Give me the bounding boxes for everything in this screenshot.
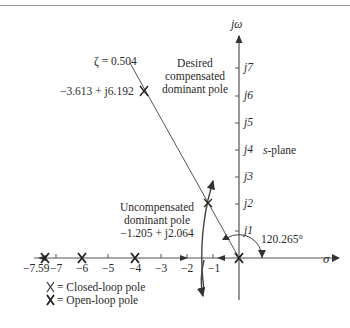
- tick-neg7: −7: [50, 262, 62, 275]
- zeta-label: ζ = 0.504: [94, 55, 137, 68]
- root-locus-plot: [0, 0, 350, 328]
- tick-j1: j1: [244, 224, 253, 237]
- tick-neg6: −6: [76, 262, 88, 275]
- tick-neg5: −5: [102, 262, 114, 275]
- imag-axis-label: jω: [231, 18, 242, 31]
- real-axis-arrow-icon: [332, 254, 340, 262]
- tick-neg2: −2: [181, 262, 193, 275]
- legend-open-loop: = Open-loop pole: [57, 294, 138, 307]
- angle-arrow-right-icon: [258, 250, 266, 258]
- legend-closed-x-icon: [47, 282, 54, 292]
- tick-neg7-59: −7.59: [23, 262, 50, 275]
- locus-branch-upper: [202, 200, 208, 290]
- root-locus-figure: jω σ s-plane j1 j2 j3 j4 j5 j6 j7 −7.59 …: [0, 0, 350, 328]
- tick-j2: j2: [244, 197, 253, 210]
- tick-j4: j4: [244, 143, 253, 156]
- tick-neg3: −3: [155, 262, 167, 275]
- tick-j3: j3: [244, 170, 253, 183]
- s-plane-label: s-plane: [263, 144, 296, 157]
- desired-pole-title: Desired compensated dominant pole: [150, 57, 240, 96]
- tick-j5: j5: [244, 116, 253, 129]
- legend-closed-loop: = Closed-loop pole: [57, 281, 145, 294]
- locus-arrow-origin-icon: [217, 255, 225, 261]
- legend-open-x-icon: [47, 295, 54, 305]
- real-axis-label: σ: [323, 252, 329, 265]
- angle-label: 120.265°: [261, 233, 303, 246]
- desired-pole-value: −3.613 + j6.192: [60, 85, 134, 98]
- uncompensated-pole-label: Uncompensated dominant pole −1.205 + j2.…: [112, 201, 202, 240]
- tick-j7: j7: [244, 61, 253, 74]
- tick-j6: j6: [244, 89, 253, 102]
- tick-neg4: −4: [129, 262, 141, 275]
- tick-neg1: −1: [208, 262, 220, 275]
